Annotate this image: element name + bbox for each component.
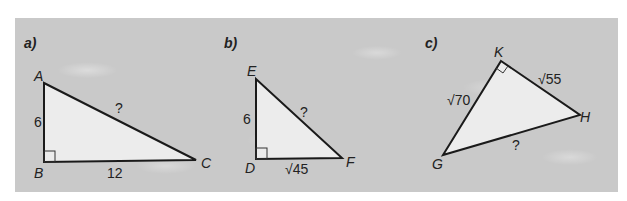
side-df-label: √45 (285, 161, 308, 177)
side-ed-label: 6 (243, 111, 251, 127)
vertex-b: B (34, 165, 43, 181)
side-bc-label: 12 (107, 165, 123, 181)
triangles-diagram: a) A B C 6 12 ? b) E D F 6 √45 ? c) K H … (0, 0, 627, 201)
vertex-f: F (346, 154, 356, 170)
vertex-a: A (33, 68, 43, 84)
vertex-g: G (432, 156, 443, 172)
triangle-edf (256, 79, 342, 159)
part-label-a: a) (24, 35, 37, 51)
side-ac-label: ? (115, 100, 123, 116)
figure-c: c) K H G √70 √55 ? (425, 35, 591, 172)
figure-a: a) A B C 6 12 ? (24, 35, 212, 181)
vertex-e: E (247, 63, 257, 79)
side-gh-label: ? (512, 137, 520, 153)
side-ef-label: ? (300, 104, 308, 120)
vertex-d: D (245, 160, 255, 176)
side-ab-label: 6 (34, 114, 42, 130)
figure-b: b) E D F 6 √45 ? (224, 35, 356, 177)
side-gk-label: √70 (447, 92, 470, 108)
vertex-k: K (494, 44, 504, 60)
vertex-c: C (201, 155, 212, 171)
side-kh-label: √55 (538, 71, 561, 87)
part-label-b: b) (224, 35, 238, 51)
triangle-abc (44, 83, 196, 162)
vertex-h: H (580, 109, 591, 125)
part-label-c: c) (425, 35, 438, 51)
